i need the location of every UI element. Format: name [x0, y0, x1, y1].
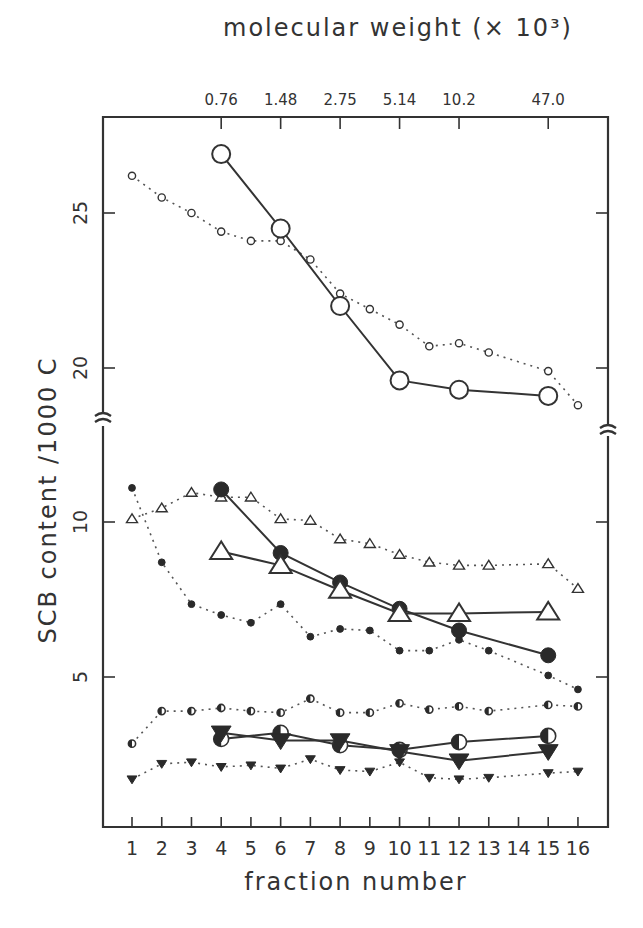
open-circle-marker [247, 237, 254, 244]
filled-circle-marker [541, 648, 556, 663]
x-tick-label: 16 [566, 837, 590, 859]
filled-circle-marker [218, 612, 225, 619]
open-triangle-marker [210, 541, 232, 559]
x-tick-label: 3 [185, 837, 197, 859]
plot-frame [95, 117, 616, 827]
open-circle-marker [545, 368, 552, 375]
series-line [132, 493, 578, 589]
x-tick-label: 5 [245, 837, 257, 859]
filled-circle-marker [307, 633, 314, 640]
series-line [132, 759, 578, 779]
filled-down-triangle-marker [276, 765, 286, 773]
x-tick-label: 7 [304, 837, 316, 859]
open-circle-marker [539, 387, 557, 405]
open-circle-marker [128, 172, 135, 179]
series-open-circle-large [212, 145, 557, 405]
open-circle-marker [396, 321, 403, 328]
open-triangle-marker [245, 492, 256, 501]
filled-down-triangle-marker [449, 754, 469, 770]
x-tick-label: 1 [126, 837, 138, 859]
x-tick-label: 8 [334, 837, 346, 859]
open-circle-marker [391, 371, 409, 389]
open-triangle-marker [275, 514, 286, 523]
filled-down-triangle-marker [127, 776, 137, 784]
x-tick-label: 11 [417, 837, 441, 859]
filled-circle-marker [129, 485, 136, 492]
y-tick-label: 20 [69, 356, 91, 380]
open-triangle-marker [156, 503, 167, 512]
y-axis-title: SCB content /1000 C [34, 356, 62, 643]
x-tick-label: 6 [275, 837, 287, 859]
x-tick-label: 12 [447, 837, 471, 859]
series-filled-down-triangle-large [211, 726, 558, 770]
open-triangle-marker [335, 534, 346, 543]
filled-down-triangle-marker [305, 756, 315, 764]
series-half-circle-small [128, 695, 581, 747]
filled-down-triangle-marker [187, 759, 197, 767]
y-tick-label: 25 [69, 201, 91, 225]
series-open-circle-small [128, 172, 581, 409]
chart: 123456789101112131415160.761.482.755.141… [0, 0, 643, 928]
filled-circle-marker [366, 627, 373, 634]
series-group [127, 145, 584, 784]
filled-down-triangle-marker [484, 774, 494, 782]
x-tick-label: 13 [477, 837, 501, 859]
series-open-triangle-large [210, 541, 559, 621]
filled-circle-marker [337, 626, 344, 633]
y-tick-label: 10 [69, 510, 91, 534]
open-triangle-marker [572, 584, 583, 593]
open-circle-marker [366, 306, 373, 313]
open-triangle-marker [127, 514, 138, 523]
filled-circle-marker [188, 601, 195, 608]
y-tick-label: 5 [69, 671, 91, 683]
open-circle-marker [331, 297, 349, 315]
top-tick-label: 10.2 [442, 91, 475, 109]
series-line [221, 154, 548, 396]
series-filled-down-triangle-small [127, 756, 583, 784]
filled-down-triangle-marker [543, 770, 553, 778]
top-tick-label: 5.14 [383, 91, 416, 109]
open-circle-marker [188, 209, 195, 216]
open-circle-marker [574, 402, 581, 409]
series-filled-circle-large [214, 482, 556, 663]
x-tick-label: 9 [364, 837, 376, 859]
x-tick-label: 4 [215, 837, 227, 859]
series-line [132, 699, 578, 744]
filled-down-triangle-marker [365, 768, 375, 776]
open-triangle-marker [448, 603, 470, 621]
filled-circle-marker [214, 482, 229, 497]
open-triangle-marker [483, 560, 494, 569]
filled-down-triangle-marker [271, 734, 291, 750]
open-triangle-marker [394, 550, 405, 559]
open-circle-marker [485, 349, 492, 356]
open-circle-marker [218, 228, 225, 235]
open-circle-marker [158, 194, 165, 201]
x-tick-label: 15 [536, 837, 560, 859]
open-circle-marker [426, 343, 433, 350]
filled-circle-marker [248, 619, 255, 626]
open-circle-marker [307, 256, 314, 263]
filled-circle-marker [396, 647, 403, 654]
filled-circle-marker [575, 686, 582, 693]
open-circle-marker [455, 340, 462, 347]
filled-down-triangle-marker [424, 774, 434, 782]
filled-circle-marker [158, 559, 165, 566]
top-tick-label: 0.76 [204, 91, 237, 109]
axis-break-left [95, 413, 111, 422]
filled-circle-marker [545, 672, 552, 679]
filled-circle-marker [485, 647, 492, 654]
x-tick-label: 2 [156, 837, 168, 859]
open-triangle-marker [186, 488, 197, 497]
x-tick-label: 10 [387, 837, 411, 859]
top-tick-label: 47.0 [532, 91, 565, 109]
top-tick-label: 1.48 [264, 91, 297, 109]
x-tick-label: 14 [506, 837, 530, 859]
frame-lower [103, 426, 608, 827]
filled-circle-marker [277, 601, 284, 608]
series-line [221, 551, 548, 613]
top-tick-label: 2.75 [323, 91, 356, 109]
filled-circle-marker [426, 647, 433, 654]
open-triangle-marker [454, 560, 465, 569]
open-circle-marker [450, 381, 468, 399]
filled-down-triangle-marker [335, 767, 345, 775]
